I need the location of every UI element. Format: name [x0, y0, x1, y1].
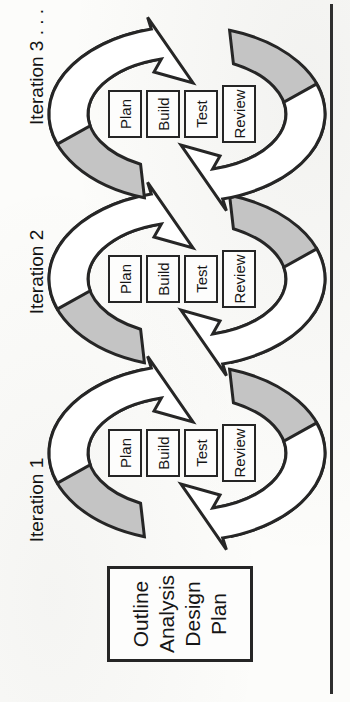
figure-border-line — [330, 4, 333, 694]
stage-box-plan: Plan — [108, 90, 142, 138]
phase-line-analysis: Analysis — [154, 575, 180, 653]
upfront-phases-box: Outline Analysis Design Plan — [107, 566, 253, 662]
diagram-canvas: Outline Analysis Design Plan Iteration 1… — [0, 0, 350, 702]
stage-box-plan: Plan — [108, 255, 142, 303]
stage-box-review: Review — [222, 424, 256, 482]
stage-box-build: Build — [146, 429, 180, 477]
stage-box-review: Review — [222, 250, 256, 308]
stage-box-plan: Plan — [108, 429, 142, 477]
phase-line-plan: Plan — [206, 593, 232, 635]
iteration-3-cycle: Iteration 3 . . . Plan Build Test Review — [0, 4, 350, 224]
scanned-diagram-page: Outline Analysis Design Plan Iteration 1… — [0, 0, 350, 702]
stage-box-build: Build — [146, 90, 180, 138]
stage-box-test: Test — [184, 429, 218, 477]
stage-box-review: Review — [222, 85, 256, 143]
stage-box-build: Build — [146, 255, 180, 303]
stage-box-test: Test — [184, 255, 218, 303]
phase-line-outline: Outline — [128, 581, 154, 648]
phase-line-design: Design — [180, 581, 206, 646]
stage-box-test: Test — [184, 90, 218, 138]
